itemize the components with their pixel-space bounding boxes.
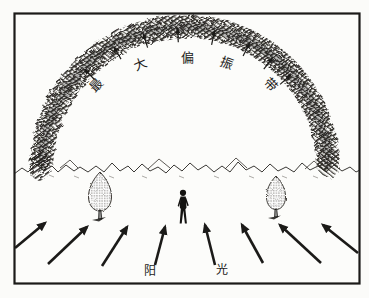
band-label-char: 偏 bbox=[181, 51, 194, 64]
mountain-range bbox=[14, 158, 360, 283]
polarization-diagram: 最 大 偏 振 带 阳 光 bbox=[0, 0, 369, 298]
tree-trunk bbox=[275, 209, 278, 217]
diagram-canvas bbox=[0, 0, 369, 298]
tree-trunk bbox=[99, 210, 102, 219]
sunlight-label-char: 光 bbox=[216, 264, 228, 276]
sunlight-label-char: 阳 bbox=[144, 265, 156, 277]
polarization-arrow bbox=[178, 28, 179, 42]
